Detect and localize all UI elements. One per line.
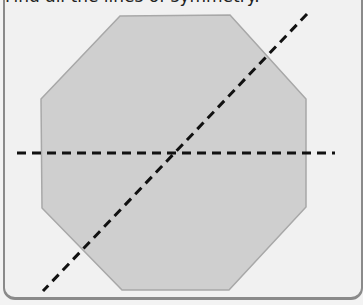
octagon-figure [0,0,335,305]
